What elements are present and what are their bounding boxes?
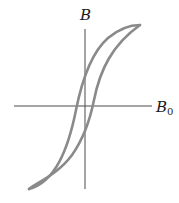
hysteresis-diagram bbox=[0, 0, 179, 203]
y-axis-label: B bbox=[80, 8, 91, 23]
x-axis-label: B0 bbox=[156, 100, 173, 117]
